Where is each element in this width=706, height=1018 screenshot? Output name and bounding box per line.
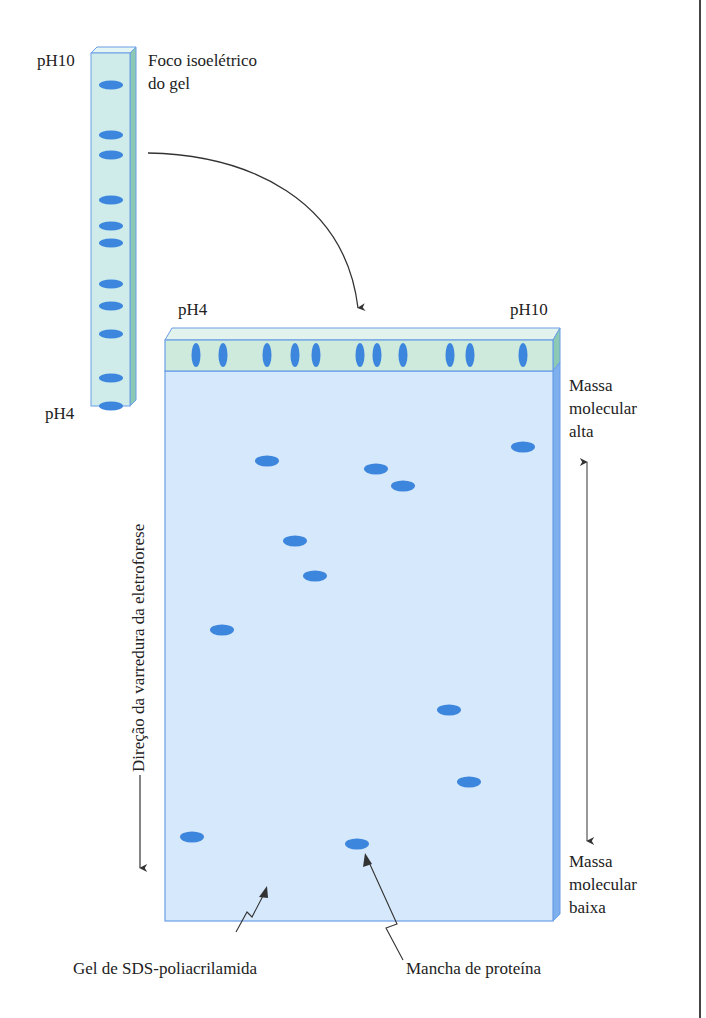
ief-strip xyxy=(91,47,136,411)
ief-band xyxy=(99,239,123,248)
gel-top-band xyxy=(373,343,382,367)
gel-ph10-label: pH10 xyxy=(510,299,548,321)
gel-side-face xyxy=(553,362,560,921)
ief-band xyxy=(99,302,123,311)
ief-band xyxy=(99,222,123,231)
spot-label: Mancha de proteína xyxy=(406,958,541,980)
gel-top-band xyxy=(312,343,321,367)
high-mass-label-3: alta xyxy=(569,421,594,443)
protein-spot xyxy=(180,832,204,843)
gel-top-band xyxy=(446,343,455,367)
low-mass-label-3: baixa xyxy=(569,897,606,919)
ief-title-line2: do gel xyxy=(148,73,190,95)
protein-spot xyxy=(255,456,279,467)
ief-ph4-label: pH4 xyxy=(45,403,74,425)
high-mass-label-2: molecular xyxy=(569,398,637,420)
protein-spot xyxy=(210,625,234,636)
gel-top-band xyxy=(219,343,228,367)
high-mass-label-1: Massa xyxy=(569,375,612,397)
low-mass-label-2: molecular xyxy=(569,874,637,896)
ief-title-line1: Foco isoelétrico xyxy=(148,50,257,72)
protein-spot xyxy=(511,442,535,453)
ief-strip-side-face xyxy=(130,47,136,406)
protein-spot xyxy=(391,481,415,492)
ief-band xyxy=(99,280,123,289)
ief-band xyxy=(99,151,123,160)
ief-band xyxy=(99,81,123,90)
ief-band xyxy=(99,374,123,383)
gel-top-band xyxy=(519,343,528,367)
gel-front-face xyxy=(165,371,553,921)
protein-spot xyxy=(303,571,327,582)
sds-gel xyxy=(165,328,560,921)
gel-top-band xyxy=(263,343,272,367)
frame-border-line xyxy=(699,0,701,1018)
gel-label: Gel de SDS-poliacrilamida xyxy=(73,958,257,980)
gel-top-band xyxy=(356,343,365,367)
ief-band xyxy=(99,330,123,339)
gel-top-band xyxy=(192,343,201,367)
ief-band xyxy=(99,131,123,140)
protein-spot xyxy=(437,705,461,716)
protein-spot xyxy=(364,464,388,475)
ief-band xyxy=(99,196,123,205)
gel-top-band xyxy=(399,343,408,367)
ief-ph10-label: pH10 xyxy=(37,50,75,72)
protein-spot xyxy=(283,536,307,547)
gel-top-face xyxy=(165,328,560,340)
direction-label: Direção da varredura da eletroforese xyxy=(129,524,149,772)
protein-spot xyxy=(345,839,369,850)
protein-spot xyxy=(457,777,481,788)
ief-strip-top-face xyxy=(91,47,136,53)
low-mass-label-1: Massa xyxy=(569,851,612,873)
transfer-arrow xyxy=(148,153,358,308)
ief-band xyxy=(99,402,123,411)
gel-top-band xyxy=(291,343,300,367)
gel-top-band xyxy=(466,343,475,367)
gel-ph4-label: pH4 xyxy=(178,299,207,321)
